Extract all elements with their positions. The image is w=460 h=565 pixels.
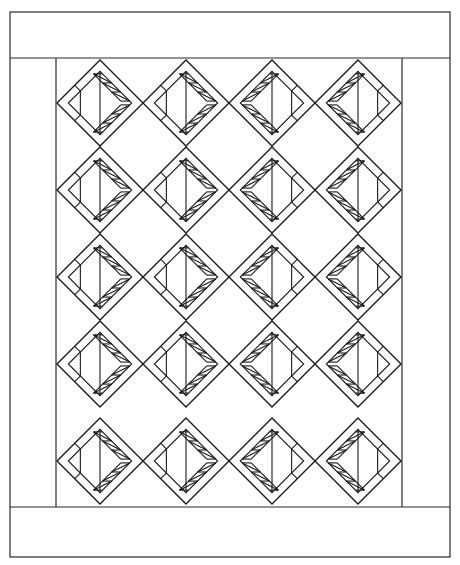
quilt-block bbox=[315, 321, 401, 407]
quilt-block bbox=[315, 418, 401, 504]
quilt-block bbox=[57, 60, 143, 146]
quilt-block bbox=[229, 60, 315, 146]
quilt-block bbox=[143, 418, 229, 504]
quilt-block bbox=[57, 147, 143, 233]
quilt-block bbox=[143, 147, 229, 233]
quilt-block bbox=[143, 321, 229, 407]
quilt-block bbox=[57, 418, 143, 504]
quilt-block bbox=[229, 321, 315, 407]
quilt-diagram bbox=[0, 0, 460, 565]
quilt-block bbox=[57, 234, 143, 320]
quilt-block bbox=[315, 234, 401, 320]
quilt-block bbox=[229, 418, 315, 504]
quilt-block bbox=[315, 147, 401, 233]
quilt-block bbox=[57, 321, 143, 407]
quilt-block bbox=[229, 234, 315, 320]
quilt-block bbox=[143, 60, 229, 146]
quilt-block bbox=[143, 234, 229, 320]
quilt-block bbox=[229, 147, 315, 233]
quilt-blocks bbox=[57, 60, 401, 504]
quilt-block bbox=[315, 60, 401, 146]
